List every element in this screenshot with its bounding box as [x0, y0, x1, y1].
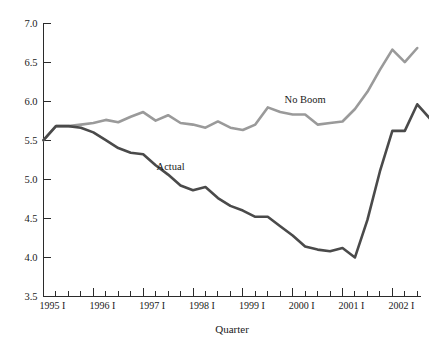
series-line-actual — [44, 104, 429, 257]
y-axis-tick-group: 3.54.04.55.05.56.06.57.0 — [24, 18, 50, 303]
annotation-no-boom: No Boom — [285, 94, 326, 105]
x-axis-tick-group — [44, 288, 418, 297]
series-group — [44, 48, 429, 257]
y-axis-tick-label: 5.5 — [24, 135, 37, 146]
y-axis-tick-label: 3.5 — [24, 291, 37, 302]
y-axis-tick-label: 4.0 — [24, 252, 37, 263]
series-line-no-boom — [44, 48, 418, 140]
x-axis-label-group: 1995 I1996 I1997 I1998 I1999 I2000 I2001… — [40, 300, 415, 311]
annotation-actual: Actual — [157, 161, 185, 172]
y-axis-tick-label: 7.0 — [24, 18, 37, 29]
x-axis-tick-label: 1995 I — [40, 300, 66, 311]
x-axis-tick-label: 1999 I — [239, 300, 265, 311]
x-axis-tick-label: 2002 I — [388, 300, 414, 311]
series-annotation-group: No BoomActual — [157, 94, 326, 172]
x-axis-tick-label: 2000 I — [289, 300, 315, 311]
y-axis-tick-label: 6.0 — [24, 96, 37, 107]
line-chart: 3.54.04.55.05.56.06.57.0 No BoomActual 1… — [0, 0, 429, 351]
x-axis-tick-label: 1998 I — [189, 300, 215, 311]
x-axis-tick-label: 2001 I — [339, 300, 365, 311]
y-axis-tick-label: 5.0 — [24, 174, 37, 185]
y-axis-tick-label: 6.5 — [24, 57, 37, 68]
x-axis-title: Quarter — [215, 323, 249, 335]
y-axis-tick-label: 4.5 — [24, 213, 37, 224]
x-axis-tick-label: 1996 I — [89, 300, 115, 311]
chart-container: 3.54.04.55.05.56.06.57.0 No BoomActual 1… — [0, 0, 429, 351]
x-axis-tick-label: 1997 I — [139, 300, 165, 311]
